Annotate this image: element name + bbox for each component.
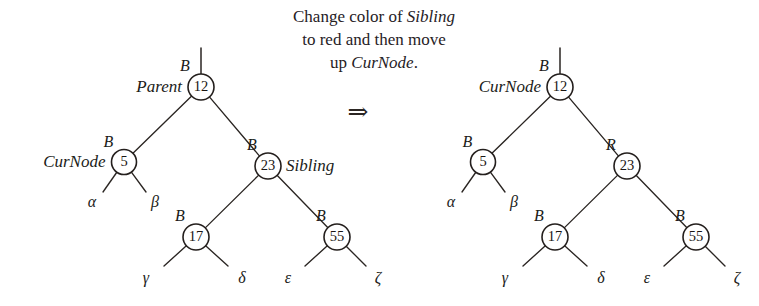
tree-node-17[interactable]: 17B [175,207,209,250]
leaf-edge [490,172,505,192]
node-key-label: 23 [620,157,635,173]
tree-edge [205,175,258,228]
node-key-label: 17 [548,228,563,244]
tree-node-12[interactable]: 12BCurNode [479,57,573,100]
node-key-label: 55 [330,228,345,244]
leaf-edge [206,246,228,266]
leaf-label: α [447,193,456,210]
node-color-label-B: B [175,207,185,224]
caption-line-3-text: up [330,53,351,72]
leaf-edge [164,246,186,266]
caption-curnode-emphasis: CurNode [351,53,414,72]
leaf-label: δ [597,269,605,286]
leaf-edge [346,246,366,266]
leaf-edge [305,246,327,266]
node-key-label: 12 [194,78,209,94]
node-color-label-B: B [316,207,326,224]
tree-node-5[interactable]: 5BCurNode [43,133,136,175]
leaf-edge [664,246,686,266]
leaf-label: ζ [375,269,383,287]
tree-transformation-figure: Change color of Siblingto red and then m… [0,0,759,306]
transformation-arrow: ⇒ [348,98,369,125]
caption-line-1: Change color of Sibling [293,7,455,26]
leaf-edge [705,246,725,266]
node-color-label-B: B [463,133,473,150]
node-key-label: 17 [189,228,204,244]
tree-node-17[interactable]: 17B [534,207,568,250]
leaf-edge [462,172,476,192]
node-key-label: 5 [479,153,486,169]
tree-node-55[interactable]: 55B [675,207,709,250]
caption-line-1-text: Change color of [293,7,407,26]
node-color-label-R: R [605,136,616,153]
node-name-label-parent: Parent [135,77,183,96]
right-tree-after: 12BCurNode5B23R17B55Bαβγδεζ [447,48,742,287]
node-key-label: 55 [689,228,704,244]
leaf-label: ε [285,269,292,286]
leaf-label: δ [238,269,246,286]
tree-edge [564,175,617,228]
leaf-label: β [509,193,518,211]
node-key-label: 12 [553,78,568,94]
leaf-label: ε [644,269,651,286]
leaf-edge [131,172,146,192]
node-name-label-curnode: CurNode [479,77,542,96]
implies-arrow-icon: ⇒ [348,98,369,125]
caption-sibling-emphasis: Sibling [407,7,455,26]
leaf-label: ζ [734,269,742,287]
node-color-label-B: B [539,57,549,74]
tree-node-55[interactable]: 55B [316,207,350,250]
tree-edge [133,96,192,153]
leaf-label: γ [143,269,150,287]
leaf-label: γ [502,269,509,287]
leaf-label: β [150,193,159,211]
tree-edge [492,96,551,153]
node-color-label-B: B [675,207,685,224]
leaf-label: α [88,193,97,210]
tree-node-23[interactable]: 23BSibling [247,136,334,179]
node-color-label-B: B [180,57,190,74]
node-color-label-B: B [104,133,114,150]
caption-line-3: up CurNode. [330,53,418,72]
node-name-label-curnode: CurNode [43,152,106,171]
leaf-edge [565,246,587,266]
leaf-edge [103,172,117,192]
caption-line-3-period: . [414,53,418,72]
caption: Change color of Siblingto red and then m… [293,7,455,72]
tree-node-12[interactable]: 12BParent [135,57,214,100]
leaf-edge [523,246,545,266]
caption-line-2: to red and then move [302,30,446,49]
tree-node-23[interactable]: 23R [605,136,640,179]
tree-node-5[interactable]: 5B [463,133,496,175]
node-key-label: 5 [120,153,127,169]
node-name-label-sibling: Sibling [286,156,334,175]
node-color-label-B: B [534,207,544,224]
left-tree-before: 12BParent5BCurNode23BSibling17B55Bαβγδεζ [43,48,383,287]
node-key-label: 23 [261,157,276,173]
node-color-label-B: B [247,136,257,153]
